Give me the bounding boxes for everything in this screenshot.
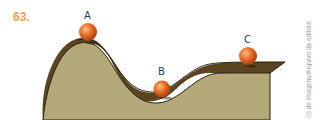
label-a: A	[84, 10, 91, 21]
ball-a	[79, 23, 97, 41]
ball-b	[154, 81, 171, 98]
terrain-front-face	[43, 43, 270, 120]
figure: 63. A B C co de imagens/Arquivo da edito…	[0, 0, 314, 120]
ball-c	[239, 47, 257, 65]
terrain-diagram	[0, 0, 314, 120]
label-b: B	[158, 66, 165, 77]
label-c: C	[244, 34, 251, 45]
image-credit: co de imagens/Arquivo da editora	[305, 18, 312, 118]
